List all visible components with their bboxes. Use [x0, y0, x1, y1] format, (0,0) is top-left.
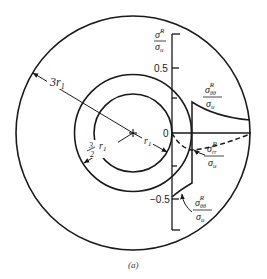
- svg-text:σR: σR: [155, 27, 165, 40]
- figure-caption: (a): [128, 260, 139, 270]
- radial-label-arrow: [194, 150, 205, 155]
- svg-text:σθθR: σθθR: [205, 81, 216, 96]
- hoop-stress-lower-label: σθθR σu: [193, 194, 212, 224]
- svg-text:σrrR: σrrR: [207, 140, 218, 155]
- svg-text:σu: σu: [155, 41, 164, 54]
- svg-text:σu: σu: [196, 211, 205, 224]
- residual-stress-diagram: 3r1 r1 3 2 r1 σR σu 0.5 0 −0.5 σθθR σu: [0, 0, 267, 279]
- svg-text:σθθR: σθθR: [195, 194, 206, 209]
- axis-title: σR σu: [154, 27, 166, 54]
- svg-text:σu: σu: [206, 98, 215, 111]
- hoop-stress-upper-label: σθθR σu: [203, 81, 222, 111]
- tick-label-0: 0: [163, 128, 169, 139]
- hoop-lower-label-arrow: [182, 194, 192, 212]
- tick-label-neg-0-5: −0.5: [150, 194, 170, 205]
- tick-label-0-5: 0.5: [154, 63, 168, 74]
- svg-text:σu: σu: [208, 157, 217, 170]
- label-1-5r1-den: 2: [90, 150, 94, 159]
